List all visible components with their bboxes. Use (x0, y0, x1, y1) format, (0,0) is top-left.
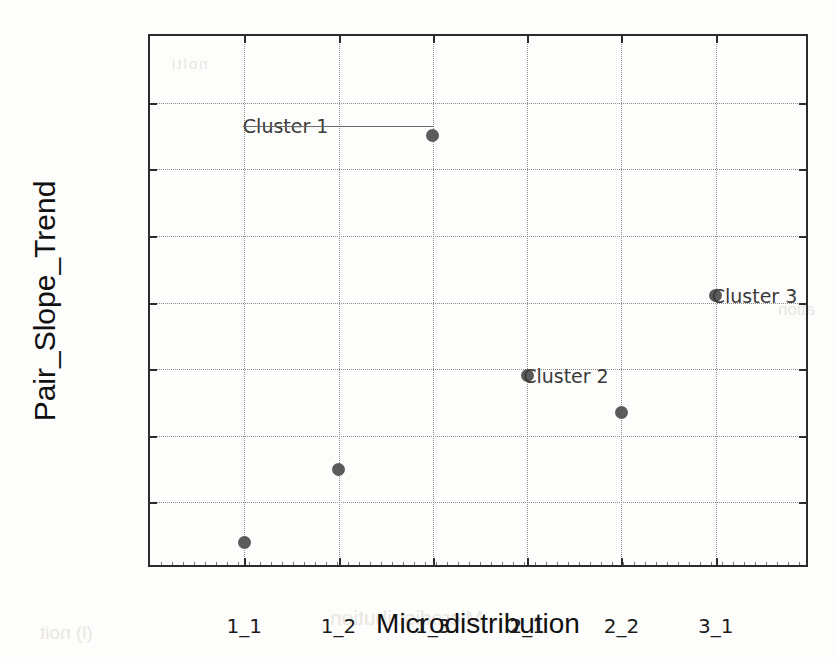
x-axis-minor-tick (689, 562, 690, 565)
x-axis-minor-tick (678, 562, 679, 565)
x-axis-minor-tick (392, 562, 393, 565)
x-axis-tick-label: 3_1 (698, 614, 733, 638)
x-axis-minor-tick (491, 562, 492, 565)
x-axis-tick-label: 1_1 (227, 614, 262, 638)
cluster-annotation: Cluster 2 (523, 365, 609, 387)
x-axis-minor-tick (634, 562, 635, 565)
data-point (426, 129, 439, 142)
x-axis-minor-tick (788, 562, 789, 565)
y-axis-tick (150, 369, 157, 371)
x-axis-minor-tick (656, 562, 657, 565)
gridline-horizontal (150, 169, 806, 170)
x-axis-minor-tick (315, 562, 316, 565)
y-axis-tick (150, 169, 157, 171)
x-axis-tick (244, 558, 246, 565)
x-axis-minor-tick (172, 562, 173, 565)
annotation-leader-line (243, 126, 433, 127)
x-axis-minor-tick (502, 562, 503, 565)
x-axis-minor-tick (667, 562, 668, 565)
x-axis-tick (716, 558, 718, 565)
x-axis-tick (339, 558, 341, 565)
x-axis-minor-tick (260, 562, 261, 565)
gridline-horizontal (150, 103, 806, 104)
x-axis-minor-tick (304, 562, 305, 565)
x-axis-minor-tick (282, 562, 283, 565)
x-axis-minor-tick (623, 562, 624, 565)
gridline-vertical (621, 36, 622, 565)
x-axis-minor-tick (359, 562, 360, 565)
gridline-vertical (339, 36, 340, 565)
x-axis-minor-tick (755, 562, 756, 565)
x-axis-tick (621, 36, 623, 43)
y-axis-tick (799, 436, 806, 438)
x-axis-tick (716, 36, 718, 43)
x-axis-minor-tick (447, 562, 448, 565)
x-axis-minor-tick (216, 562, 217, 565)
y-axis-tick (799, 236, 806, 238)
x-axis-minor-tick (601, 562, 602, 565)
y-axis-tick (150, 502, 157, 504)
x-axis-minor-tick (722, 562, 723, 565)
x-axis-minor-tick (744, 562, 745, 565)
y-axis-tick (150, 436, 157, 438)
x-axis-minor-tick (271, 562, 272, 565)
gridline-vertical (433, 36, 434, 565)
x-axis-minor-tick (348, 562, 349, 565)
x-axis-minor-tick (711, 562, 712, 565)
x-axis-tick (433, 558, 435, 565)
gridline-horizontal (150, 303, 806, 304)
x-axis-title: Microdistribution (376, 608, 580, 640)
plot-area: 00.0020.0040.0060.0080.010.0120.0140.016… (148, 34, 808, 567)
gridline-horizontal (150, 369, 806, 370)
x-axis-minor-tick (337, 562, 338, 565)
x-axis-minor-tick (436, 562, 437, 565)
scan-bleed-artifact: (l) noit (40, 622, 93, 644)
x-axis-minor-tick (557, 562, 558, 565)
x-axis-tick (244, 36, 246, 43)
gridline-vertical (527, 36, 528, 565)
x-axis-minor-tick (469, 562, 470, 565)
gridline-horizontal (150, 436, 806, 437)
y-axis-tick (150, 303, 157, 305)
x-axis-tick-label: 2_1 (509, 614, 544, 638)
x-axis-minor-tick (568, 562, 569, 565)
x-axis-minor-tick (458, 562, 459, 565)
y-axis-tick (799, 303, 806, 305)
gridline-horizontal (150, 236, 806, 237)
data-point (332, 463, 345, 476)
x-axis-minor-tick (249, 562, 250, 565)
x-axis-minor-tick (590, 562, 591, 565)
x-axis-minor-tick (381, 562, 382, 565)
x-axis-minor-tick (414, 562, 415, 565)
x-axis-minor-tick (524, 562, 525, 565)
data-point (615, 406, 628, 419)
x-axis-minor-tick (612, 562, 613, 565)
x-axis-minor-tick (403, 562, 404, 565)
x-axis-minor-tick (700, 562, 701, 565)
y-axis-title: Pair_Slope_Trend (28, 180, 62, 421)
x-axis-minor-tick (205, 562, 206, 565)
y-axis-tick (799, 502, 806, 504)
x-axis-minor-tick (766, 562, 767, 565)
chart-figure: Microdistribution (l) noit ation nolti P… (0, 0, 836, 662)
x-axis-minor-tick (777, 562, 778, 565)
y-axis-tick (799, 169, 806, 171)
x-axis-minor-tick (238, 562, 239, 565)
x-axis-minor-tick (799, 562, 800, 565)
x-axis-minor-tick (227, 562, 228, 565)
x-axis-minor-tick (293, 562, 294, 565)
x-axis-minor-tick (513, 562, 514, 565)
gridline-horizontal (150, 502, 806, 503)
x-axis-minor-tick (370, 562, 371, 565)
x-axis-minor-tick (183, 562, 184, 565)
y-axis-tick (150, 236, 157, 238)
y-axis-tick (150, 103, 157, 105)
x-axis-tick (527, 36, 529, 43)
cluster-annotation: Cluster 3 (712, 285, 798, 307)
y-axis-tick (799, 103, 806, 105)
x-axis-minor-tick (546, 562, 547, 565)
x-axis-minor-tick (326, 562, 327, 565)
data-point (238, 536, 251, 549)
x-axis-minor-tick (645, 562, 646, 565)
x-axis-tick-label: 1_3 (415, 614, 450, 638)
